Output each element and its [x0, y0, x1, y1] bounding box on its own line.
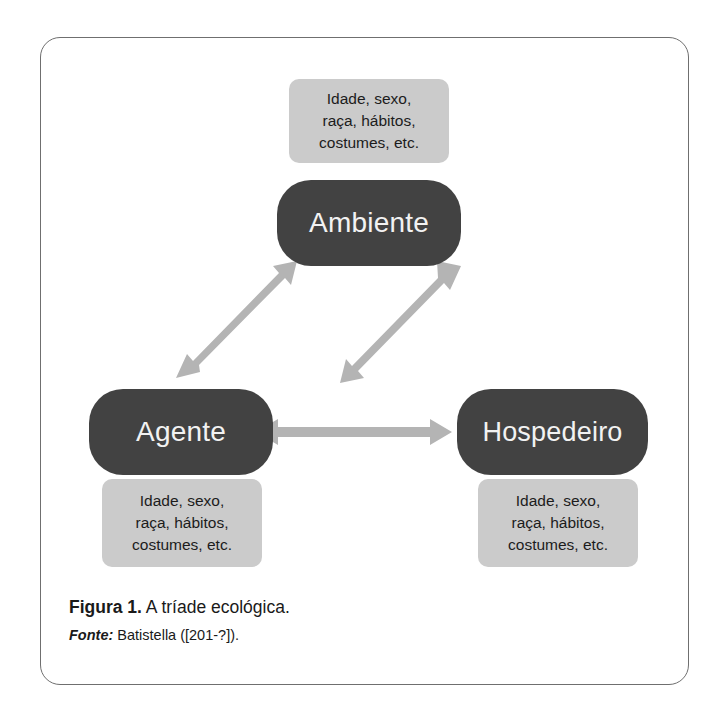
attribute-line: raça, hábitos,	[322, 110, 415, 132]
figure-source: Fonte: Batistella ([201-?]).	[69, 626, 629, 645]
figure-caption-label: Figura 1.	[69, 597, 142, 617]
node-ambiente-label: Ambiente	[309, 207, 429, 239]
node-ambiente[interactable]: Ambiente	[277, 180, 461, 266]
attribute-line: Idade, sexo,	[140, 490, 224, 512]
arrow-ambiente-hospedeiro	[340, 261, 461, 383]
node-hospedeiro[interactable]: Hospedeiro	[457, 389, 648, 475]
attribute-box-hospedeiro: Idade, sexo, raça, hábitos, costumes, et…	[478, 479, 638, 567]
attribute-box-agente: Idade, sexo, raça, hábitos, costumes, et…	[102, 479, 262, 567]
node-agente-label: Agente	[136, 416, 226, 448]
attribute-line: costumes, etc.	[508, 534, 608, 556]
attribute-line: raça, hábitos,	[511, 512, 604, 534]
figure-source-label: Fonte:	[69, 627, 113, 643]
attribute-line: Idade, sexo,	[327, 88, 411, 110]
node-agente[interactable]: Agente	[89, 389, 273, 475]
attribute-line: costumes, etc.	[132, 534, 232, 556]
figure-caption-text: A tríade ecológica.	[142, 597, 290, 617]
figure-caption-block: Figura 1. A tríade ecológica. Fonte: Bat…	[69, 596, 629, 645]
figure-source-text: Batistella ([201-?]).	[113, 627, 239, 643]
figure-caption: Figura 1. A tríade ecológica.	[69, 596, 629, 619]
attribute-box-ambiente: Idade, sexo, raça, hábitos, costumes, et…	[289, 79, 449, 163]
node-hospedeiro-label: Hospedeiro	[482, 417, 622, 448]
arrow-agente-hospedeiro	[256, 419, 452, 445]
arrow-agente-ambiente	[176, 261, 297, 378]
figure-root: Idade, sexo, raça, hábitos, costumes, et…	[0, 0, 727, 725]
attribute-line: costumes, etc.	[319, 132, 419, 154]
attribute-line: raça, hábitos,	[135, 512, 228, 534]
attribute-line: Idade, sexo,	[516, 490, 600, 512]
